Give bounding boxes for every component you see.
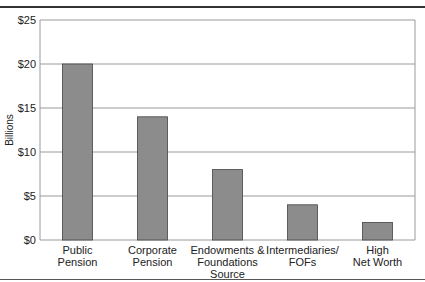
x-category-label: Intermediaries/ <box>266 244 340 256</box>
x-category-label: Pension <box>133 256 173 268</box>
bar <box>213 170 243 240</box>
bar-chart: $0$5$10$15$20$25BillionsPublicPensionCor… <box>0 0 425 282</box>
bar <box>288 205 318 240</box>
y-tick-label: $25 <box>18 14 36 26</box>
bar <box>63 64 93 240</box>
x-category-label: FOFs <box>289 256 317 268</box>
x-category-label: High <box>366 244 389 256</box>
x-category-label: Public <box>63 244 93 256</box>
y-tick-label: $15 <box>18 102 36 114</box>
bar <box>363 222 393 240</box>
bottom-rule <box>0 279 425 280</box>
bar <box>138 117 168 240</box>
y-tick-label: $0 <box>24 234 36 246</box>
y-tick-label: $20 <box>18 58 36 70</box>
x-category-label: Pension <box>58 256 98 268</box>
x-category-label: Endowments & <box>191 244 266 256</box>
y-tick-label: $10 <box>18 146 36 158</box>
y-axis-label: Billions <box>4 114 15 146</box>
x-category-label: Net Worth <box>353 256 402 268</box>
y-tick-label: $5 <box>24 190 36 202</box>
x-category-label: Foundations <box>197 256 258 268</box>
x-category-label: Corporate <box>128 244 177 256</box>
